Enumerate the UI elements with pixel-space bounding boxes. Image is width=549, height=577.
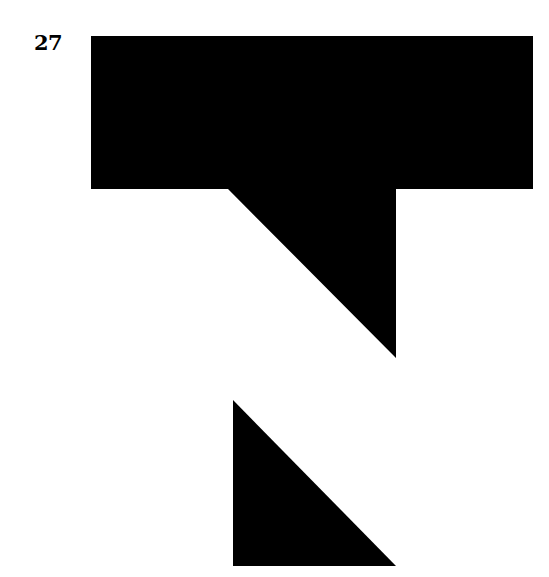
- figure-artwork: [0, 0, 549, 577]
- figure-canvas: 27: [0, 0, 549, 577]
- figure-number-label: 27: [34, 30, 80, 58]
